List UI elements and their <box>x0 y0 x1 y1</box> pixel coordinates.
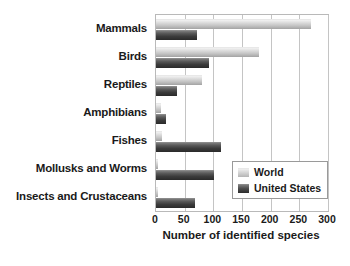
bar-amphibians-united-states <box>156 114 166 124</box>
bar-mammals-world <box>156 19 311 29</box>
gridline-300 <box>328 15 329 211</box>
chart-legend: World United States <box>232 161 328 199</box>
bar-group-fishes <box>156 127 328 155</box>
category-label-birds: Birds <box>0 42 152 70</box>
species-bar-chart: Mammals Birds Reptiles Amphibians Fishes… <box>0 0 350 266</box>
bar-group-mammals <box>156 15 328 43</box>
bar-insects-and-crustaceans-world <box>156 187 158 197</box>
category-label-mollusks-and-worms: Mollusks and Worms <box>0 154 152 182</box>
legend-swatch-united-states-icon <box>238 184 249 193</box>
x-axis-ticks: 050100150200250300 <box>155 213 327 228</box>
bar-reptiles-world <box>156 75 202 85</box>
legend-item-united-states: United States <box>238 182 321 194</box>
category-label-mammals: Mammals <box>0 14 152 42</box>
legend-label-united-states: United States <box>254 182 321 194</box>
bar-insects-and-crustaceans-united-states <box>156 198 195 208</box>
legend-item-world: World <box>238 166 321 178</box>
bar-mollusks-and-worms-united-states <box>156 170 214 180</box>
bar-birds-world <box>156 47 259 57</box>
bar-mollusks-and-worms-world <box>156 159 158 169</box>
bar-fishes-united-states <box>156 142 221 152</box>
bar-reptiles-united-states <box>156 86 177 96</box>
x-axis-title: Number of identified species <box>155 229 327 241</box>
bar-group-birds <box>156 43 328 71</box>
x-tick-label-100: 100 <box>204 213 222 225</box>
x-tick-label-250: 250 <box>290 213 308 225</box>
x-tick-label-50: 50 <box>178 213 190 225</box>
category-label-reptiles: Reptiles <box>0 70 152 98</box>
legend-swatch-world-icon <box>238 168 249 177</box>
bar-amphibians-world <box>156 103 161 113</box>
x-tick-label-0: 0 <box>152 213 158 225</box>
category-axis: Mammals Birds Reptiles Amphibians Fishes… <box>0 14 152 210</box>
bar-group-amphibians <box>156 99 328 127</box>
bar-group-reptiles <box>156 71 328 99</box>
bar-fishes-world <box>156 131 162 141</box>
legend-label-world: World <box>254 166 284 178</box>
category-label-fishes: Fishes <box>0 126 152 154</box>
bar-birds-united-states <box>156 58 209 68</box>
category-label-insects-and-crustaceans: Insects and Crustaceans <box>0 182 152 210</box>
x-tick-label-200: 200 <box>261 213 279 225</box>
category-label-amphibians: Amphibians <box>0 98 152 126</box>
x-tick-label-300: 300 <box>318 213 336 225</box>
x-tick-label-150: 150 <box>232 213 250 225</box>
bar-mammals-united-states <box>156 30 197 40</box>
